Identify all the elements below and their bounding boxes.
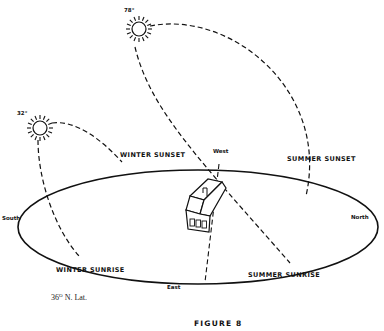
latitude-value: 36 (51, 293, 59, 302)
winter-sun-icon (27, 115, 53, 141)
figure-caption: FIGURE 8 (194, 319, 243, 328)
winter-sunset-label: WINTER SUNSET (120, 151, 185, 159)
winter-sunrise-label: WINTER SUNRISE (56, 266, 125, 274)
sun-path-diagram: 78° 32° WINTER SUNSET WINTER SUNRISE SUM… (0, 0, 384, 331)
east-label: East (167, 284, 180, 290)
south-label: South (2, 215, 20, 221)
summer-sunset-label: SUMMER SUNSET (287, 155, 356, 163)
west-label: West (213, 148, 229, 154)
north-label: North (351, 214, 369, 220)
winter-sun-path-sunset (52, 123, 122, 162)
winter-sun-altitude-label: 32° (17, 110, 27, 116)
summer-sun-icon (126, 16, 152, 42)
summer-sunrise-label: SUMMER SUNRISE (248, 271, 320, 279)
house-icon (186, 179, 226, 232)
latitude-note: 36O N. Lat. (51, 293, 87, 302)
winter-sun-path-sunrise (38, 140, 80, 257)
diagram-drawing (0, 0, 384, 331)
summer-sun-altitude-label: 78° (124, 7, 134, 13)
latitude-suffix: N. Lat. (63, 293, 87, 302)
